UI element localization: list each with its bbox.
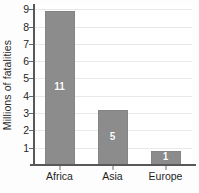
x-tick-label: Asia: [102, 171, 122, 182]
bar-value-label: 5: [110, 132, 116, 142]
y-axis-tick-labels: 123456789: [14, 0, 31, 165]
bar-value-label: 1: [163, 152, 169, 162]
bar: 5: [98, 110, 128, 165]
x-tick-label: Europe: [149, 171, 183, 182]
x-tick-label: Africa: [46, 171, 73, 182]
y-axis-title-text: Millions of fatalities: [1, 40, 13, 130]
y-axis-title: Millions of fatalities: [0, 0, 14, 170]
y-axis-line: [33, 4, 35, 165]
bar-value-label: 11: [54, 82, 65, 92]
bar-chart: Millions of fatalities 123456789 1151 Af…: [0, 0, 199, 193]
plot-area: 1151: [33, 4, 192, 165]
bar: 11: [45, 11, 75, 165]
bar: 1: [151, 151, 181, 165]
x-axis-tick-labels: AfricaAsiaEurope: [33, 166, 192, 192]
